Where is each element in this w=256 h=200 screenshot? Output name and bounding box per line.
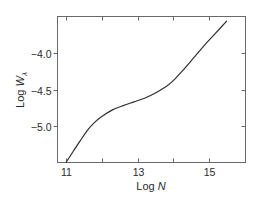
chart: 111315 −4.0−4.5−5.0 Log N Log Wλ [0,0,256,200]
x-axis-title: Log N [136,180,165,192]
y-tick-label: −5.0 [31,121,52,133]
y-axis-ticks: −4.0−4.5−5.0 [31,48,246,133]
x-tick-label: 11 [61,166,72,178]
x-tick-label: 15 [204,166,216,178]
x-tick-label: 13 [133,166,145,178]
x-axis-ticks: 111315 [61,17,215,179]
y-tick-label: −4.5 [31,85,52,97]
y-axis-title: Log Wλ [14,72,29,108]
plot-frame [58,17,246,163]
data-curve [66,21,227,163]
y-tick-label: −4.0 [31,48,52,60]
